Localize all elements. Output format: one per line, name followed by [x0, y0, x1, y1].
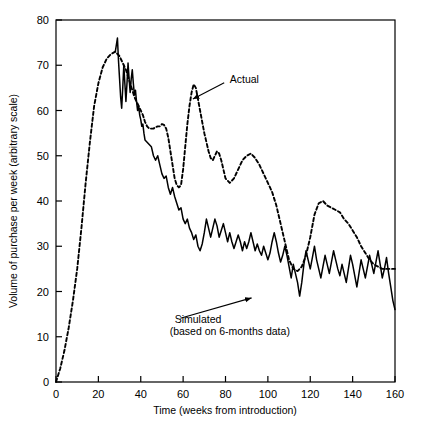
y-axis-title: Volume of purchase per week (arbitrary s… [7, 94, 19, 308]
x-tick-label: 0 [53, 388, 59, 400]
y-tick-label: 50 [37, 150, 49, 162]
x-tick-label: 140 [343, 388, 361, 400]
actual-annotation-label: Actual [230, 73, 259, 85]
x-tick-label: 100 [259, 388, 277, 400]
chart-container: 01020304050607080 020406080100120140160 … [0, 0, 427, 429]
simulated-annotation-label: Simulated [175, 313, 222, 325]
x-axis-title: Time (weeks from introduction) [153, 404, 297, 416]
y-tick-label: 80 [37, 14, 49, 26]
simulated-annotation-sublabel: (based on 6-months data) [170, 325, 290, 337]
y-tick-label: 20 [37, 286, 49, 298]
actual-annotation: Actual [193, 73, 259, 99]
x-tick-label: 20 [92, 388, 104, 400]
x-tick-label: 40 [135, 388, 147, 400]
x-tick-label: 60 [177, 388, 189, 400]
y-tick-label: 70 [37, 59, 49, 71]
x-tick-label: 120 [301, 388, 319, 400]
y-tick-label: 30 [37, 240, 49, 252]
y-tick-label: 60 [37, 105, 49, 117]
y-tick-label: 40 [37, 195, 49, 207]
x-tick-label: 160 [386, 388, 404, 400]
y-tick-label: 0 [43, 376, 49, 388]
y-axis-ticks: 01020304050607080 [37, 14, 62, 388]
actual-annotation-leader-arrow [193, 83, 224, 99]
line-chart-svg: 01020304050607080 020406080100120140160 … [0, 0, 427, 429]
simulated-annotation: Simulated(based on 6-months data) [170, 298, 290, 337]
y-tick-label: 10 [37, 331, 49, 343]
annotations-layer: ActualSimulated(based on 6-months data) [170, 73, 290, 337]
x-axis-ticks: 020406080100120140160 [53, 376, 404, 400]
x-tick-label: 80 [219, 388, 231, 400]
